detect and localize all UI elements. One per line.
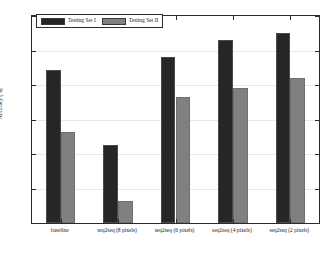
legend-entry-1: Testing Set II bbox=[102, 18, 159, 25]
y-tick-mark bbox=[315, 154, 319, 155]
y-axis-title: Accuracy (%) bbox=[0, 88, 3, 119]
y-tick-mark bbox=[32, 120, 36, 121]
x-tick-mark bbox=[118, 219, 119, 223]
y-tick-mark bbox=[32, 154, 36, 155]
x-tick-label: seq2seq (6 pixels) bbox=[155, 227, 195, 233]
x-tick-mark bbox=[61, 219, 62, 223]
y-tick-mark bbox=[315, 120, 319, 121]
y-tick-mark bbox=[315, 223, 319, 224]
x-tick-label: baseline bbox=[51, 227, 69, 233]
y-tick-mark bbox=[32, 51, 36, 52]
x-tick-label: seq2seq (4 pixels) bbox=[212, 227, 252, 233]
legend-label-series-1: Testing Set II bbox=[129, 18, 159, 24]
y-tick-mark bbox=[315, 51, 319, 52]
x-tick-label: seq2seq (8 pixels) bbox=[97, 227, 137, 233]
x-tick-label: seq2seq (2 pixels) bbox=[269, 227, 309, 233]
y-tick-mark bbox=[315, 16, 319, 17]
y-tick-mark bbox=[315, 85, 319, 86]
y-tick-mark bbox=[315, 189, 319, 190]
x-tick-mark bbox=[233, 219, 234, 223]
plot-area bbox=[31, 15, 320, 224]
legend-swatch-icon-series-0 bbox=[41, 18, 65, 25]
legend-label-series-0: Testing Set I bbox=[68, 18, 96, 24]
x-tick-mark bbox=[290, 219, 291, 223]
x-tick-mark bbox=[290, 16, 291, 20]
legend-entry-0: Testing Set I bbox=[41, 18, 96, 25]
x-tick-mark bbox=[176, 16, 177, 20]
bar-chart-figure: Accuracy (%) Testing Set I Testing Set I… bbox=[0, 0, 331, 255]
legend-swatch-icon-series-1 bbox=[102, 18, 126, 25]
y-tick-mark bbox=[32, 223, 36, 224]
y-tick-mark bbox=[32, 189, 36, 190]
x-tick-mark bbox=[233, 16, 234, 20]
chart-legend: Testing Set I Testing Set II bbox=[36, 14, 163, 28]
y-tick-mark bbox=[32, 85, 36, 86]
x-tick-mark bbox=[176, 219, 177, 223]
axis-ticks-layer bbox=[32, 16, 319, 223]
